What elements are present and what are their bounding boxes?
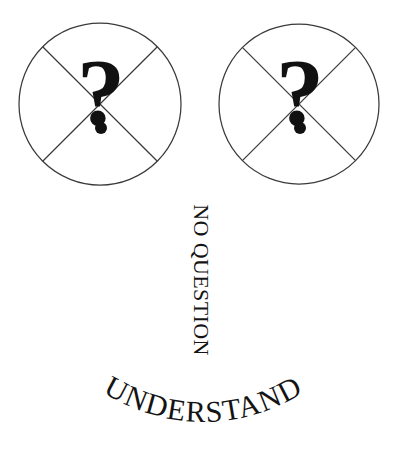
arc-label-understand: UNDERSTAND: [100, 369, 308, 428]
arc-label-understand-path: UNDERSTAND: [100, 369, 308, 428]
arc-label-understand-svg: UNDERSTAND: [0, 366, 403, 452]
crossed-circle-left: [19, 23, 181, 185]
vertical-label-no-question: NO QUESTION: [188, 204, 214, 356]
artwork-canvas: ? ? NO QUESTION UNDERSTAND: [0, 0, 403, 452]
arc-label-understand-wrap: UNDERSTAND: [0, 366, 403, 452]
crossed-circle-right: [219, 24, 379, 184]
